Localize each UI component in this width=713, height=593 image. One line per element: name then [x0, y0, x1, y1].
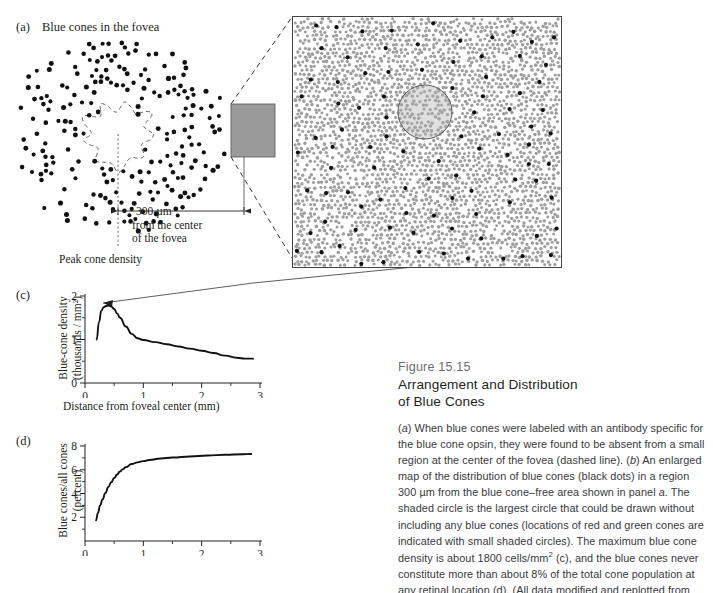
red-green-cone-dot: [406, 60, 409, 63]
red-green-cone-dot: [471, 208, 474, 211]
red-green-cone-dot: [405, 173, 408, 176]
red-green-cone-dot: [494, 39, 497, 42]
red-green-cone-dot: [488, 168, 491, 171]
red-green-cone-dot: [459, 31, 462, 34]
red-green-cone-dot: [449, 204, 452, 207]
red-green-cone-dot: [315, 85, 319, 89]
red-green-cone-dot: [344, 117, 347, 120]
red-green-cone-dot: [547, 141, 550, 144]
red-green-cone-dot: [354, 83, 358, 87]
red-green-cone-dot: [326, 242, 329, 245]
red-green-cone-dot: [458, 230, 461, 233]
red-green-cone-dot: [338, 55, 341, 58]
red-green-cone-dot: [543, 245, 546, 248]
blue-cone-dot: [403, 186, 407, 190]
red-green-cone-dot: [494, 64, 498, 68]
red-green-cone-dot: [316, 251, 319, 254]
red-green-cone-dot: [394, 116, 397, 119]
blue-cone-dot: [357, 106, 361, 110]
red-green-cone-dot: [305, 137, 309, 141]
red-green-cone-dot: [420, 198, 424, 202]
red-green-cone-dot: [427, 226, 430, 229]
red-green-cone-dot: [472, 164, 475, 167]
red-green-cone-dot: [371, 226, 374, 229]
red-green-cone-dot: [508, 195, 511, 198]
red-green-cone-dot: [422, 190, 425, 193]
red-green-cone-dot: [353, 39, 356, 42]
red-green-cone-dot: [354, 221, 357, 224]
red-green-cone-dot: [329, 263, 332, 266]
red-green-cone-dot: [492, 237, 496, 241]
red-green-cone-dot: [367, 46, 370, 49]
red-green-cone-dot: [346, 34, 350, 38]
red-green-cone-dot: [486, 180, 489, 183]
red-green-cone-dot: [393, 237, 397, 241]
red-green-cone-dot: [360, 241, 363, 244]
red-green-cone-dot: [485, 68, 488, 71]
red-green-cone-dot: [522, 74, 526, 78]
red-green-cone-dot: [370, 95, 373, 98]
blue-cone-dot: [384, 46, 388, 50]
red-green-cone-dot: [520, 50, 523, 53]
red-green-cone-dot: [501, 232, 504, 235]
red-green-cone-dot: [555, 42, 558, 45]
red-green-cone-dot: [552, 167, 555, 170]
red-green-cone-dot: [327, 87, 330, 90]
red-green-cone-dot: [542, 120, 545, 123]
red-green-cone-dot: [443, 72, 446, 75]
red-green-cone-dot: [472, 250, 476, 254]
red-green-cone-dot: [299, 39, 302, 42]
red-green-cone-dot: [379, 228, 382, 231]
blue-cone-dot: [459, 134, 463, 138]
red-green-cone-dot: [339, 168, 342, 171]
red-green-cone-dot: [542, 98, 545, 101]
red-green-cone-dot: [462, 120, 465, 123]
red-green-cone-dot: [385, 215, 388, 218]
red-green-cone-dot: [525, 189, 528, 192]
red-green-cone-dot: [317, 78, 320, 81]
red-green-cone-dot: [300, 78, 303, 81]
red-green-cone-dot: [522, 224, 525, 227]
red-green-cone-dot: [332, 185, 336, 189]
red-green-cone-dot: [521, 249, 525, 253]
red-green-cone-dot: [409, 142, 413, 146]
red-green-cone-dot: [334, 203, 337, 206]
red-green-cone-dot: [381, 77, 384, 80]
red-green-cone-dot: [315, 90, 318, 93]
red-green-cone-dot: [454, 219, 458, 223]
red-green-cone-dot: [505, 165, 508, 168]
red-green-cone-dot: [536, 165, 539, 168]
red-green-cone-dot: [395, 163, 398, 166]
red-green-cone-dot: [522, 199, 525, 202]
red-green-cone-dot: [358, 194, 361, 197]
red-green-cone-dot: [471, 77, 475, 81]
red-green-cone-dot: [523, 124, 526, 127]
red-green-cone-dot: [475, 260, 478, 263]
red-green-cone-dot: [535, 207, 538, 210]
red-green-cone-dot: [411, 207, 414, 210]
red-green-cone-dot: [372, 90, 375, 93]
red-green-cone-dot: [555, 95, 558, 98]
red-green-cone-dot: [329, 245, 332, 248]
red-green-cone-dot: [380, 216, 383, 219]
red-green-cone-dot: [416, 225, 419, 228]
red-green-cone-dot: [379, 168, 382, 171]
red-green-cone-dot: [476, 78, 479, 81]
blue-cone-dot: [404, 211, 408, 215]
red-green-cone-dot: [370, 181, 373, 184]
red-green-cone-dot: [518, 168, 522, 172]
red-green-cone-dot: [332, 130, 336, 134]
red-green-cone-dot: [314, 56, 317, 59]
red-green-cone-dot: [313, 177, 316, 180]
red-green-cone-dot: [395, 91, 398, 94]
red-green-cone-dot: [440, 77, 443, 80]
red-green-cone-dot: [498, 109, 501, 112]
red-green-cone-dot: [543, 177, 546, 180]
red-green-cone-dot: [394, 29, 397, 32]
red-green-cone-dot: [524, 52, 528, 56]
red-green-cone-dot: [338, 64, 341, 67]
red-green-cone-dot: [390, 251, 393, 254]
red-green-cone-dot: [393, 20, 396, 23]
red-green-cone-dot: [482, 242, 485, 245]
red-green-cone-dot: [523, 39, 526, 42]
